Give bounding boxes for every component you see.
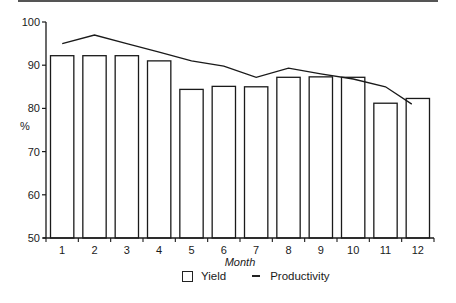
yield-bar-7 — [245, 87, 268, 238]
yield-bar-5 — [180, 89, 203, 238]
yield-swatch-icon — [182, 271, 193, 282]
yield-bar-1 — [51, 56, 74, 238]
y-tick-label: 100 — [22, 16, 40, 28]
x-tick-label: 3 — [124, 244, 130, 256]
yield-bar-12 — [406, 98, 429, 238]
y-tick-label: 50 — [28, 232, 40, 244]
y-tick-label: 80 — [28, 102, 40, 114]
x-tick-label: 10 — [347, 244, 359, 256]
y-axis-title: % — [20, 120, 30, 132]
x-tick-label: 12 — [412, 244, 424, 256]
yield-bar-2 — [83, 56, 106, 238]
x-tick-label: 7 — [253, 244, 259, 256]
legend-productivity-label: Productivity — [270, 270, 329, 282]
x-tick-label: 11 — [380, 244, 391, 256]
x-tick-label: 9 — [318, 244, 324, 256]
x-tick-label: 2 — [91, 244, 97, 256]
yield-bar-6 — [212, 86, 235, 238]
yield-bar-4 — [148, 61, 171, 238]
x-tick-label: 8 — [285, 244, 291, 256]
legend: Yield Productivity — [182, 270, 330, 282]
productivity-swatch-icon — [252, 275, 260, 277]
yield-bar-10 — [342, 77, 365, 238]
y-tick-label: 70 — [28, 146, 40, 158]
legend-yield-label: Yield — [201, 270, 226, 282]
x-axis-title: Month — [225, 256, 256, 268]
chart-plot: 5060708090100123456789101112%Month — [0, 0, 456, 270]
y-tick-label: 90 — [28, 59, 40, 71]
x-tick-label: 5 — [188, 244, 194, 256]
x-tick-label: 1 — [59, 244, 65, 256]
yield-bar-11 — [374, 103, 397, 238]
x-tick-label: 6 — [221, 244, 227, 256]
yield-bar-8 — [277, 77, 300, 238]
y-tick-label: 60 — [28, 189, 40, 201]
x-tick-label: 4 — [156, 244, 162, 256]
yield-bar-3 — [115, 56, 138, 238]
yield-bar-9 — [309, 77, 332, 238]
